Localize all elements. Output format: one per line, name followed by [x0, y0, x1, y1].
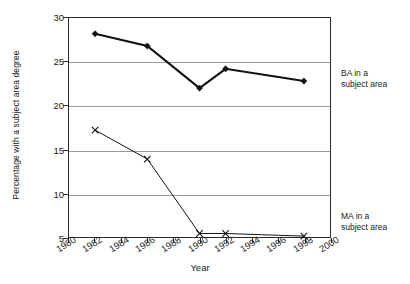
legend-ma-line1: MA in a — [341, 211, 369, 221]
data-point-marker — [92, 31, 98, 37]
chart-figure: Percentage with a subject area degree 51… — [0, 0, 410, 284]
data-point-marker — [301, 78, 307, 84]
y-tick-label: 25 — [30, 56, 64, 67]
y-tick-mark — [63, 150, 68, 151]
y-tick-mark — [63, 17, 68, 18]
y-tick-label: 20 — [30, 100, 64, 111]
legend-ba-line2: subject area — [341, 79, 387, 90]
legend-label-ba: BA in a subject area — [341, 68, 387, 90]
y-axis-title-text: Percentage with a subject area degree — [11, 50, 21, 199]
y-tick-label: 30 — [30, 12, 64, 23]
data-point-marker — [144, 156, 151, 163]
y-tick-label: 10 — [30, 188, 64, 199]
y-tick-mark — [63, 61, 68, 62]
legend-ba-line1: BA in a — [341, 68, 368, 78]
y-axis-title: Percentage with a subject area degree — [6, 0, 26, 250]
legend-label-ma: MA in a subject area — [341, 211, 387, 233]
series-layer — [69, 18, 330, 237]
data-point-marker — [92, 127, 99, 134]
series-ma — [92, 127, 307, 240]
series-ba — [92, 31, 307, 91]
y-tick-mark — [63, 105, 68, 106]
y-tick-mark — [63, 194, 68, 195]
x-axis-title: Year — [0, 262, 400, 273]
plot-area — [68, 17, 331, 238]
series-line — [95, 34, 304, 88]
legend-ma-line2: subject area — [341, 222, 387, 233]
series-line — [95, 130, 304, 236]
y-tick-label: 15 — [30, 144, 64, 155]
